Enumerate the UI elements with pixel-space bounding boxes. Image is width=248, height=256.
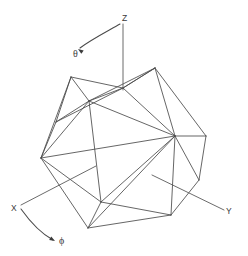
polyhedron-edge [175, 136, 199, 180]
axis-label-z: Z [122, 13, 127, 23]
polyhedron-edge [41, 158, 101, 202]
polyhedron-edge [171, 136, 175, 215]
axis-line-group [21, 24, 224, 210]
polyhedron-edge [155, 68, 175, 136]
polyhedron-edge [89, 88, 123, 101]
polyhedron-edge [41, 158, 88, 228]
axis-line-x [21, 166, 96, 205]
angle-arc-phi [21, 209, 53, 240]
polyhedron-edge [101, 202, 171, 215]
polyhedron-edge [71, 77, 123, 88]
polyhedron-edge-group [41, 68, 206, 228]
axis-label-y: Y [226, 206, 232, 216]
arrow-head-icon-phi [49, 236, 56, 242]
polyhedron-edge [123, 68, 155, 88]
polyhedron-edge [89, 101, 175, 136]
polyhedron-edge [171, 180, 199, 215]
angle-label-theta: θ [73, 48, 78, 59]
polyhedron-edge [41, 77, 71, 158]
polyhedron-edge [88, 136, 175, 228]
polyhedron-edge [199, 136, 206, 180]
polyhedron-edge [41, 101, 89, 158]
figure-canvas: ZXY θϕ [0, 0, 248, 256]
polyhedron-edge [155, 68, 206, 136]
angle-arc-theta [80, 24, 120, 48]
polyhedron-edge [88, 215, 171, 228]
polyhedron-edge [123, 88, 175, 136]
icosahedron-diagram: ZXY θϕ [0, 0, 248, 256]
polyhedron-edge [41, 136, 175, 158]
polyhedron-edge [89, 68, 155, 101]
angle-label-phi: ϕ [59, 235, 64, 246]
axis-line-y [152, 175, 224, 210]
polyhedron-edge [89, 101, 101, 202]
polyhedron-edge [88, 202, 101, 228]
axis-label-x: X [11, 203, 17, 213]
